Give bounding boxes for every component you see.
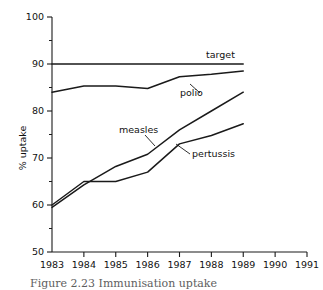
series-label-target: target — [206, 49, 235, 60]
x-tick-label: 1985 — [104, 259, 128, 270]
y-tick-label: 100 — [26, 11, 44, 22]
x-axis-tick-labels: 198319841985198619871988198919901991 — [40, 259, 319, 270]
x-tick-label: 1991 — [295, 259, 319, 270]
series-label-measles: measles — [119, 124, 158, 135]
series-line-polio — [52, 71, 243, 92]
series-label-polio: polio — [180, 87, 203, 98]
x-tick-label: 1989 — [231, 259, 255, 270]
y-tick-label: 60 — [32, 199, 44, 210]
x-axis-ticks — [84, 252, 307, 257]
x-tick-label: 1990 — [263, 259, 287, 270]
y-tick-label: 50 — [32, 246, 44, 257]
x-tick-label: 1986 — [136, 259, 160, 270]
y-tick-label: 70 — [32, 152, 44, 163]
x-tick-label: 1988 — [199, 259, 223, 270]
y-axis-tick-labels: 5060708090100 — [26, 11, 44, 257]
series-lines — [52, 64, 243, 207]
x-tick-label: 1983 — [40, 259, 64, 270]
y-tick-label: 80 — [32, 105, 44, 116]
series-line-pertussis — [52, 124, 243, 205]
measles-leader-line — [145, 135, 155, 146]
y-axis-title: % uptake — [17, 126, 28, 171]
x-tick-label: 1987 — [167, 259, 191, 270]
pertussis-leader-line — [176, 144, 190, 154]
figure-caption: Figure 2.23 Immunisation uptake — [30, 277, 217, 290]
series-label-pertussis: pertussis — [192, 148, 235, 159]
y-tick-label: 90 — [32, 58, 44, 69]
x-tick-label: 1984 — [72, 259, 96, 270]
